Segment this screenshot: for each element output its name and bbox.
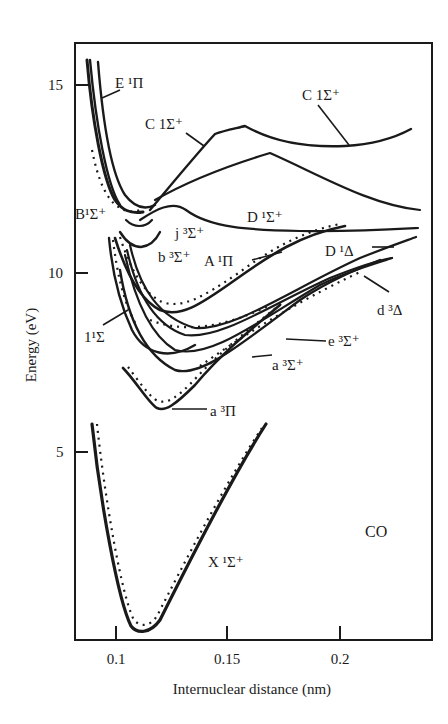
label-E1Pi: E ¹Π [115,75,143,91]
x-tick-0.1: 0.1 [107,651,126,667]
curve-b3Sigma [120,232,160,247]
label-1-1Sigma: 1¹Σ [84,329,105,345]
label-A1Pi: A ¹Π [204,253,233,269]
label-e3Sigma: e ³Σ⁺ [328,333,360,349]
y-axis: 15 10 5 Energy (eV) [23,77,88,460]
label-b3Sigma: b ³Σ⁺ [158,249,190,265]
y-axis-title: Energy (eV) [23,308,40,382]
label-a3Sigma: a ³Σ⁺ [272,357,304,373]
curve-X1Sigma [92,424,266,631]
curve-C1Sigma-mid [155,153,420,210]
y-tick-15: 15 [48,77,63,93]
label-C1Sigma-mid: C 1Σ⁺ [145,116,183,132]
curve-A1Pi [115,226,345,312]
molecule-label: CO [365,523,387,540]
potential-energy-diagram: 15 10 5 Energy (eV) 0.1 0.15 0.2 Internu… [0,0,448,724]
x-axis-title: Internuclear distance (nm) [173,681,331,698]
label-X1Sigma: X ¹Σ⁺ [208,554,244,570]
label-a3Pi: a ³Π [210,403,236,419]
y-tick-5: 5 [56,444,64,460]
label-D1Delta: D ¹Δ [325,243,354,259]
curves [87,60,420,631]
curve-j3Sigma [126,220,152,226]
label-j3Sigma: j ³Σ⁺ [174,225,204,241]
x-axis: 0.1 0.15 0.2 Internuclear distance (nm) [107,626,350,698]
label-d3Delta: d ³Δ [377,302,403,318]
label-C1Sigma-upper: C 1Σ⁺ [302,87,340,103]
plot-frame [75,43,432,640]
label-B1Sigma: B¹Σ⁺ [75,206,106,222]
label-D1Sigma: D ¹Σ⁺ [247,209,283,225]
x-tick-0.2: 0.2 [331,651,350,667]
x-tick-0.15: 0.15 [214,651,240,667]
y-tick-10: 10 [48,265,63,281]
